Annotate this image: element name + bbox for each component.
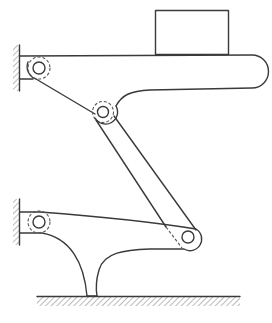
mechanism-diagram	[0, 0, 272, 323]
bottom-pivot-joint	[28, 211, 50, 233]
connecting-link-hidden-edge	[166, 227, 182, 248]
top-pivot-joint	[28, 57, 50, 79]
payload-box	[156, 11, 229, 55]
platform-link	[20, 55, 269, 114]
lower-lever	[20, 212, 202, 296]
ground	[37, 297, 240, 307]
right-pivot-joint	[182, 231, 194, 243]
connecting-link	[96, 116, 196, 230]
bottom-wall-support	[13, 199, 20, 245]
top-wall-support	[13, 45, 33, 91]
